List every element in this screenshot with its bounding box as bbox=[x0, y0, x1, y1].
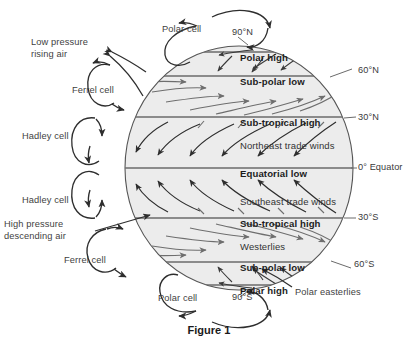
cell-label-ferrel-cell-south: Ferrel cell bbox=[64, 255, 106, 267]
polar-cell-north-loop-top bbox=[212, 10, 270, 28]
cell-label-hadley-cell-north: Hadley cell bbox=[22, 131, 69, 143]
wind-belt-text: Northeast trade winds bbox=[239, 140, 336, 152]
band-text: Sub-polar low bbox=[239, 262, 306, 274]
figure-caption: Figure 1 bbox=[0, 324, 418, 336]
annotation-low-pressure-rising-air: Low pressure rising air bbox=[31, 36, 88, 60]
annotation-polar-easterlies: Polar easterlies bbox=[295, 287, 361, 299]
band-text: Polar high bbox=[239, 52, 289, 64]
annotation-high-pressure-descending-air: High pressure descending air bbox=[4, 218, 66, 242]
cell-label-polar-cell-south: Polar cell bbox=[158, 293, 197, 305]
cell-label-polar-cell-north: Polar cell bbox=[162, 24, 201, 36]
band-text: Sub-tropical high bbox=[239, 218, 322, 230]
band-text: Sub-tropical high bbox=[239, 117, 322, 129]
figure-global-circulation: Polar high Sub-polar low Sub-tropical hi… bbox=[0, 0, 418, 343]
wind-belt-text: Southeast trade winds bbox=[239, 196, 337, 208]
latitude-label-30n: 30°N bbox=[358, 112, 379, 124]
band-text: Sub-polar low bbox=[239, 76, 306, 88]
latitude-label-30s: 30°S bbox=[358, 212, 378, 224]
hadley-cell-north-loop bbox=[72, 118, 99, 165]
hadley-cell-south-loop bbox=[72, 171, 99, 218]
cell-label-hadley-cell-south: Hadley cell bbox=[22, 195, 69, 207]
latitude-label-60n: 60°N bbox=[358, 65, 379, 77]
latitude-label-equator: 0° Equator bbox=[358, 162, 403, 174]
latitude-label-60s: 60°S bbox=[354, 259, 374, 271]
band-text: Equatorial low bbox=[239, 168, 308, 180]
cell-label-ferrel-cell-north: Ferrel cell bbox=[72, 85, 114, 97]
wind-belt-text: Westerlies bbox=[239, 241, 286, 253]
latitude-label-90n: 90°N bbox=[232, 27, 253, 39]
latitude-label-90s: 90°S bbox=[232, 292, 252, 304]
